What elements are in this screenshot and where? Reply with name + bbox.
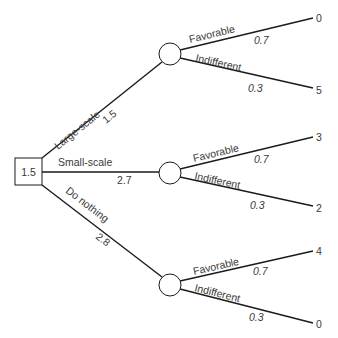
chance-node-large-scale: Favorable 0.7 Indifferent 0.3 0 5 — [159, 12, 322, 96]
chance-node-circle — [159, 274, 181, 296]
outcome-probability-favorable: 0.7 — [254, 34, 270, 46]
chance-node-small-scale: Favorable 0.7 Indifferent 0.3 3 2 — [159, 131, 322, 214]
payoff-value: 0 — [316, 318, 322, 330]
chance-node-circle — [159, 162, 181, 184]
chance-node-do-nothing: Favorable 0.7 Indifferent 0.3 4 0 — [159, 245, 322, 330]
branch-large-scale: Large-scale 1.5 — [42, 62, 162, 158]
decision-node-value: 1.5 — [21, 166, 36, 178]
outcome-probability-indifferent: 0.3 — [249, 311, 264, 323]
outcome-label-indifferent: Indifferent — [194, 281, 242, 304]
chance-node-circle — [159, 43, 181, 65]
payoff-value: 4 — [316, 245, 322, 257]
branch-small-scale: Small-scale 2.7 — [42, 156, 159, 186]
payoff-value: 2 — [316, 202, 322, 214]
branch-expected-value: 2.8 — [94, 230, 113, 249]
branch-expected-value: 2.7 — [117, 174, 132, 186]
outcome-label-indifferent: Indifferent — [195, 51, 243, 73]
branch-do-nothing: Do nothing 2.8 — [42, 184, 162, 277]
branch-label: Small-scale — [58, 156, 112, 168]
outcome-probability-indifferent: 0.3 — [248, 82, 263, 94]
outcome-label-favorable: Favorable — [192, 255, 240, 277]
payoff-value: 0 — [316, 12, 322, 24]
outcome-label-favorable: Favorable — [188, 22, 236, 45]
outcome-probability-favorable: 0.7 — [253, 265, 269, 277]
outcome-probability-favorable: 0.7 — [254, 153, 270, 165]
payoff-value: 3 — [316, 131, 322, 143]
decision-tree-diagram: 1.5 Large-scale 1.5 Favorable 0.7 Indiff… — [0, 0, 338, 338]
decision-tree-canvas: 1.5 Large-scale 1.5 Favorable 0.7 Indiff… — [0, 0, 338, 338]
outcome-probability-indifferent: 0.3 — [250, 199, 265, 211]
payoff-value: 5 — [316, 84, 322, 96]
branch-label: Large-scale — [52, 108, 102, 152]
decision-node: 1.5 — [15, 158, 42, 185]
branch-label: Do nothing — [64, 184, 112, 225]
outcome-label-indifferent: Indifferent — [194, 169, 242, 191]
